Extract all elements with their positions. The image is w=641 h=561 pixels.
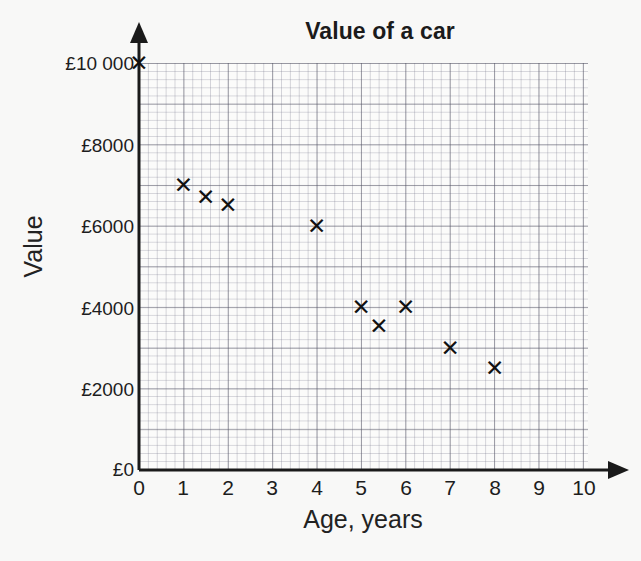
data-point-marker: ✕	[217, 194, 239, 216]
data-point-marker: ✕	[195, 186, 217, 208]
data-point-marker: ✕	[395, 296, 417, 318]
data-point-marker: ✕	[368, 315, 390, 337]
data-point-marker: ✕	[128, 52, 150, 74]
data-point-marker: ✕	[439, 337, 461, 359]
data-point-marker: ✕	[306, 215, 328, 237]
data-point-marker: ✕	[172, 174, 194, 196]
data-point-marker: ✕	[484, 357, 506, 379]
scatter-chart: Value of a car £10 000 £8000 £6000 £4000…	[0, 0, 641, 561]
data-points-layer: ✕✕✕✕✕✕✕✕✕✕	[0, 0, 641, 561]
